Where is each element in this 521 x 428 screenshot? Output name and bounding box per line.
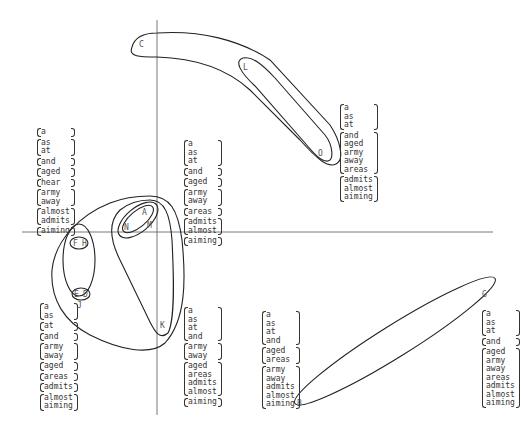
word-label: and bbox=[266, 337, 295, 346]
word-bracket: areas bbox=[184, 208, 222, 217]
word-bracket: admits bbox=[40, 383, 78, 392]
cluster-amnk bbox=[112, 200, 174, 336]
word-bracket: and bbox=[37, 158, 75, 167]
word-label: away bbox=[188, 197, 217, 206]
word-bracket: aas bbox=[40, 303, 78, 320]
word-bracket: armyawayadmitsalmostaiming bbox=[262, 366, 300, 409]
word-bracket: agedarmyawayareasadmitsalmostaiming bbox=[482, 348, 520, 408]
word-label: almost bbox=[188, 227, 217, 236]
word-bracket: almostaiming bbox=[40, 394, 78, 411]
word-label: aiming bbox=[188, 398, 217, 407]
word-bracket: aasat bbox=[184, 140, 222, 166]
word-bracket: agedareas bbox=[262, 347, 300, 364]
word-label: away bbox=[188, 352, 217, 361]
word-bracket: agedareasadmitsalmost bbox=[184, 362, 222, 396]
word-label: areas bbox=[344, 166, 373, 175]
word-bracket: aasatand bbox=[262, 311, 300, 345]
word-label: admits bbox=[41, 217, 70, 226]
word-bracket: and bbox=[184, 168, 222, 177]
word-label: aiming bbox=[486, 399, 515, 408]
cluster-bg bbox=[286, 265, 503, 417]
word-label: at bbox=[41, 147, 70, 156]
word-label: at bbox=[344, 121, 373, 130]
word-label: almost bbox=[188, 388, 217, 397]
word-bracket: asat bbox=[37, 139, 75, 156]
word-bracket: admitsalmost bbox=[184, 218, 222, 235]
cluster-diagram: C L O A N M F H E D J K B G bbox=[0, 0, 521, 428]
word-label: away bbox=[41, 198, 70, 207]
word-bracket: at bbox=[40, 322, 78, 331]
word-label: at bbox=[44, 322, 73, 331]
point-e: E bbox=[74, 290, 79, 299]
word-group-upper-right: aasatandagedarmyawayareasadmitsalmostaim… bbox=[340, 104, 378, 204]
word-group-upper-center: aasatandagedarmyawayareasadmitsalmostaim… bbox=[184, 140, 222, 248]
point-c: C bbox=[139, 40, 144, 49]
word-bracket: and bbox=[482, 338, 520, 347]
word-bracket: armyaway bbox=[184, 343, 222, 360]
cluster-lo bbox=[239, 58, 332, 161]
word-label: aiming bbox=[344, 193, 373, 202]
word-label: as bbox=[44, 312, 73, 321]
point-m: M bbox=[147, 221, 152, 230]
word-label: and bbox=[41, 158, 70, 167]
word-bracket: armyaway bbox=[40, 343, 78, 360]
cluster-clo bbox=[131, 32, 340, 165]
word-bracket: armyaway bbox=[37, 189, 75, 206]
word-bracket: almostadmits bbox=[37, 208, 75, 225]
word-label: areas bbox=[188, 208, 217, 217]
word-label: areas bbox=[44, 373, 73, 382]
word-label: at bbox=[486, 327, 515, 336]
word-label: aiming bbox=[41, 227, 70, 236]
point-f: F bbox=[73, 239, 78, 248]
word-bracket: and bbox=[40, 333, 78, 342]
point-a: A bbox=[142, 208, 147, 217]
word-label: at bbox=[188, 157, 217, 166]
word-label: aiming bbox=[44, 402, 73, 411]
point-n: N bbox=[124, 223, 129, 232]
word-group-lower-mid: aasatandagedareasarmyawayadmitsalmostaim… bbox=[262, 311, 300, 411]
word-bracket: andagedarmyawayareas bbox=[340, 132, 378, 175]
word-bracket: aasat bbox=[340, 104, 378, 130]
point-o: O bbox=[318, 149, 323, 158]
word-bracket: aiming bbox=[184, 398, 222, 407]
word-bracket: hear bbox=[37, 179, 75, 188]
word-bracket: aged bbox=[184, 178, 222, 187]
word-label: aiming bbox=[188, 237, 217, 246]
word-bracket: aiming bbox=[37, 227, 75, 236]
word-label: areas bbox=[266, 356, 295, 365]
word-group-lower-left: aasatandarmyawayagedareasadmitsalmostaim… bbox=[40, 303, 78, 413]
word-label: and bbox=[188, 333, 217, 342]
word-bracket: aged bbox=[40, 362, 78, 371]
word-label: aged bbox=[44, 362, 73, 371]
point-d: D bbox=[83, 290, 88, 299]
word-group-lower-center: aasatandarmyawayagedareasadmitsalmostaim… bbox=[184, 307, 222, 409]
word-label: and bbox=[44, 333, 73, 342]
point-h: H bbox=[82, 239, 87, 248]
word-group-upper-left: aasatandagedheararmyawayalmostadmitsaimi… bbox=[37, 128, 75, 238]
word-label: a bbox=[41, 128, 70, 137]
word-bracket: a bbox=[37, 128, 75, 137]
word-bracket: aasat bbox=[482, 310, 520, 336]
word-bracket: armyaway bbox=[184, 189, 222, 206]
word-group-lower-right: aasatandagedarmyawayareasadmitsalmostaim… bbox=[482, 310, 520, 410]
word-label: aged bbox=[41, 168, 70, 177]
word-bracket: admitsalmostaiming bbox=[340, 176, 378, 202]
point-k: K bbox=[160, 321, 165, 330]
word-label: aiming bbox=[266, 400, 295, 409]
word-bracket: aasatand bbox=[184, 307, 222, 341]
word-label: admits bbox=[44, 383, 73, 392]
word-label: away bbox=[44, 352, 73, 361]
cluster-amn-outer bbox=[112, 195, 164, 244]
word-label: and bbox=[486, 338, 515, 347]
word-label: aged bbox=[188, 178, 217, 187]
word-bracket: aged bbox=[37, 168, 75, 177]
word-bracket: aiming bbox=[184, 237, 222, 246]
point-g: G bbox=[482, 290, 487, 299]
word-label: hear bbox=[41, 179, 70, 188]
point-l: L bbox=[243, 63, 248, 72]
word-label: and bbox=[188, 168, 217, 177]
word-bracket: areas bbox=[40, 373, 78, 382]
